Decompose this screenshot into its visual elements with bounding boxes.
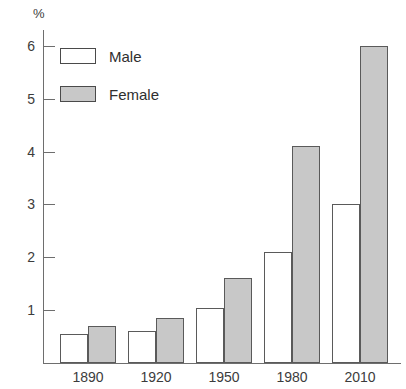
x-axis-tick-label: 1920 [121, 370, 191, 384]
bar-female-1950 [224, 278, 252, 363]
bar-group [60, 30, 116, 363]
x-axis-tick-label: 1950 [189, 370, 259, 384]
bar-male-1890 [60, 334, 88, 363]
x-axis-line [43, 363, 401, 364]
bar-male-2010 [332, 204, 360, 363]
y-axis-tick-label: 2 [13, 250, 35, 264]
bar-group [196, 30, 252, 363]
plot-area [43, 30, 401, 363]
bar-group [332, 30, 388, 363]
x-axis-tick-label: 1980 [257, 370, 327, 384]
bar-group [264, 30, 320, 363]
y-axis-tick-label: 6 [13, 39, 35, 53]
bar-female-1920 [156, 318, 184, 363]
bar-female-1890 [88, 326, 116, 363]
bar-male-1920 [128, 331, 156, 363]
y-axis-unit-label: % [33, 6, 45, 21]
bar-male-1980 [264, 252, 292, 363]
bar-male-1950 [196, 308, 224, 364]
bar-female-2010 [360, 46, 388, 363]
bar-group [128, 30, 184, 363]
y-axis-tick-label: 3 [13, 197, 35, 211]
y-axis-tick-label: 4 [13, 145, 35, 159]
x-axis-tick-label: 1890 [53, 370, 123, 384]
y-axis-tick-label: 1 [13, 303, 35, 317]
y-axis-tick-label: 5 [13, 92, 35, 106]
bar-female-1980 [292, 146, 320, 363]
bar-chart: % 123456 Male Female 1890192019501980201… [0, 0, 406, 389]
x-axis-tick-label: 2010 [325, 370, 395, 384]
